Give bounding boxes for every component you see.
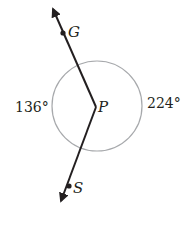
angle-circle	[52, 61, 142, 151]
label-g: G	[68, 23, 80, 41]
point-g-dot	[60, 30, 65, 35]
label-s: S	[73, 179, 83, 197]
angle-diagram: G P S 136° 224°	[0, 0, 182, 233]
angle-label-224: 224°	[147, 95, 181, 111]
angle-label-136: 136°	[15, 99, 49, 115]
label-p: P	[97, 98, 109, 116]
point-s-dot	[66, 183, 71, 188]
